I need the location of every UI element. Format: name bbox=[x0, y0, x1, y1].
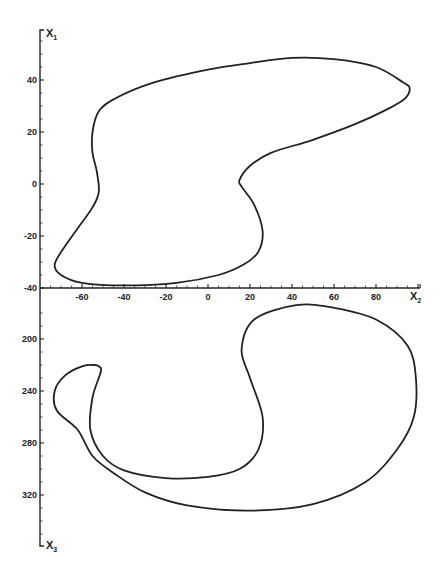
x-tick-label: -60 bbox=[75, 292, 88, 302]
y-tick-label: 20 bbox=[27, 127, 37, 137]
x3-tick-label: 200 bbox=[22, 334, 37, 344]
x-tick-label: 0 bbox=[205, 292, 210, 302]
lower-y-axis-label: X3 bbox=[46, 539, 57, 553]
x-tick-label: 60 bbox=[329, 292, 339, 302]
x-axis-label: X2 bbox=[410, 290, 421, 304]
x-tick-label: -40 bbox=[117, 292, 130, 302]
phase-portrait-figure: X1 X2 X3 -40-2002040-60-40-2002040608020… bbox=[0, 0, 447, 568]
x-tick-label: -20 bbox=[159, 292, 172, 302]
x3-tick-label: 240 bbox=[22, 386, 37, 396]
y-tick-label: 0 bbox=[32, 179, 37, 189]
y-tick-label: 40 bbox=[27, 75, 37, 85]
lower-orbit-curve bbox=[54, 304, 417, 510]
y-tick-label: -20 bbox=[24, 231, 37, 241]
x-tick-label: 40 bbox=[287, 292, 297, 302]
x-tick-label: 80 bbox=[371, 292, 381, 302]
y-tick-label: -40 bbox=[24, 283, 37, 293]
upper-orbit-curve bbox=[55, 58, 410, 286]
x3-tick-label: 320 bbox=[22, 490, 37, 500]
x-tick-label: 20 bbox=[245, 292, 255, 302]
upper-y-axis-label: X1 bbox=[46, 27, 57, 41]
x3-tick-label: 280 bbox=[22, 438, 37, 448]
trajectories bbox=[54, 58, 417, 511]
axes bbox=[40, 30, 420, 546]
